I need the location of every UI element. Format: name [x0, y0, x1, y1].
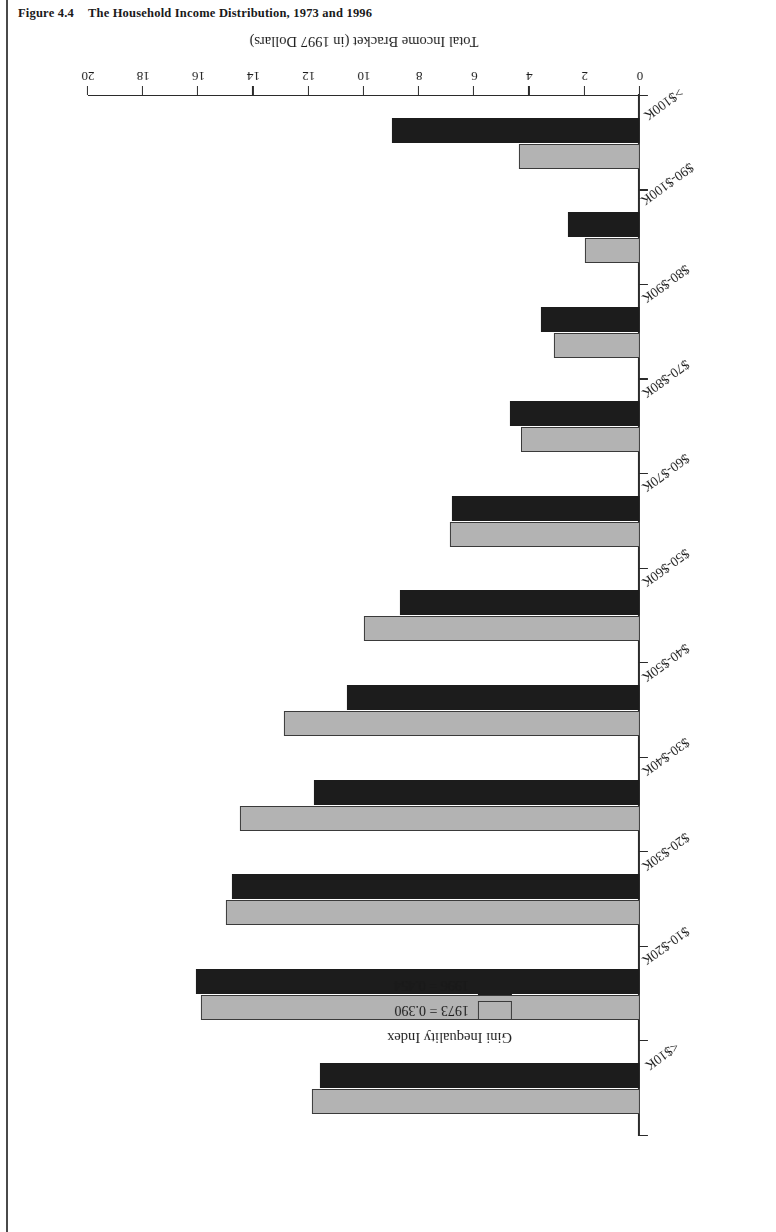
bar-1973-100K: [519, 144, 640, 169]
value-tick-label: 14: [234, 68, 274, 84]
category-axis-line: [88, 95, 640, 96]
value-tick-label: 0: [620, 68, 660, 84]
bar-1973-5060K: [364, 617, 640, 642]
bar-1973-6070K: [450, 522, 640, 547]
value-tick-label: 20: [68, 68, 108, 84]
value-tick-label: 4: [510, 68, 550, 84]
category-tick: [639, 568, 648, 569]
bar-1996-10K: [320, 1063, 640, 1088]
bar-1973-4050K: [284, 711, 640, 736]
value-tick: [528, 86, 529, 95]
value-tick: [418, 86, 419, 95]
category-label: <$10K: [642, 1038, 682, 1073]
legend-entry: 1973 = 0.390: [302, 1001, 512, 1020]
value-tick-label: 18: [123, 68, 163, 84]
legend-label-1996: 1996 = 0.454: [395, 978, 469, 994]
chart-canvas: 02468101214161820 <$10K$10-$20K$20-$30K$…: [0, 0, 776, 1232]
category-tick: [639, 284, 648, 285]
value-tick-label: 16: [178, 68, 218, 84]
category-tick: [639, 757, 648, 758]
value-tick: [363, 86, 364, 95]
category-tick: [639, 1040, 648, 1041]
bar-1996-90100K: [568, 212, 640, 237]
category-label: >$100K: [641, 85, 686, 124]
value-tick: [142, 86, 143, 95]
bar-1973-7080K: [521, 427, 640, 452]
bar-1996-8090K: [541, 307, 640, 332]
bar-1996-100K: [392, 118, 640, 143]
legend: Gini Inequality Index 1973 = 0.3901996 =…: [302, 970, 512, 1046]
bar-1996-2030K: [232, 874, 640, 899]
bar-1973-90100K: [585, 238, 640, 263]
legend-title: Gini Inequality Index: [302, 1029, 512, 1046]
value-tick: [252, 86, 253, 95]
category-tick: [639, 473, 648, 474]
bar-1996-7080K: [510, 401, 640, 426]
bar-1973-10K: [312, 1089, 640, 1114]
bar-1996-6070K: [452, 496, 640, 521]
bar-1973-2030K: [226, 900, 640, 925]
category-tick: [639, 1135, 648, 1136]
value-tick-label: 10: [344, 68, 384, 84]
bar-1996-3040K: [314, 780, 640, 805]
y-axis-title: Percentage of Households in Income Brack…: [289, 1176, 306, 1232]
category-label: $90-$100K: [638, 159, 697, 208]
legend-entries: 1973 = 0.3901996 = 0.454: [302, 976, 512, 1020]
category-tick: [639, 95, 648, 96]
category-tick: [639, 851, 648, 852]
x-axis-title: Total Income Bracket (in 1997 Dollars): [88, 33, 640, 50]
value-tick-label: 12: [289, 68, 329, 84]
category-tick: [639, 662, 648, 663]
value-tick: [584, 86, 585, 95]
category-tick: [639, 378, 648, 379]
bar-1996-5060K: [400, 591, 640, 616]
value-tick: [308, 86, 309, 95]
value-tick: [473, 86, 474, 95]
category-tick: [639, 946, 648, 947]
value-tick: [197, 86, 198, 95]
legend-label-1973: 1973 = 0.390: [395, 1003, 469, 1019]
value-tick: [639, 86, 640, 95]
value-tick-label: 2: [565, 68, 605, 84]
bar-1973-8090K: [554, 333, 640, 358]
legend-swatch-1973: [478, 1001, 512, 1020]
bar-1973-3040K: [240, 806, 640, 831]
value-tick: [87, 86, 88, 95]
bar-1996-4050K: [347, 685, 640, 710]
legend-swatch-1996: [478, 976, 512, 995]
value-tick-label: 8: [399, 68, 439, 84]
value-tick-label: 6: [454, 68, 494, 84]
legend-entry: 1996 = 0.454: [302, 976, 512, 995]
